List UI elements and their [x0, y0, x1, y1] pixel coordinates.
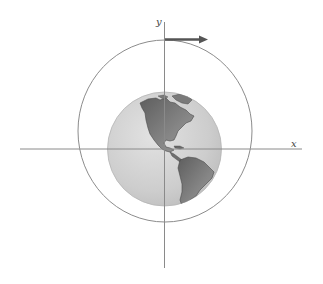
arrowhead-icon	[199, 36, 208, 44]
orbit-diagram: y x	[0, 0, 323, 284]
x-axis-label: x	[291, 138, 297, 149]
y-axis-label: y	[156, 16, 162, 27]
